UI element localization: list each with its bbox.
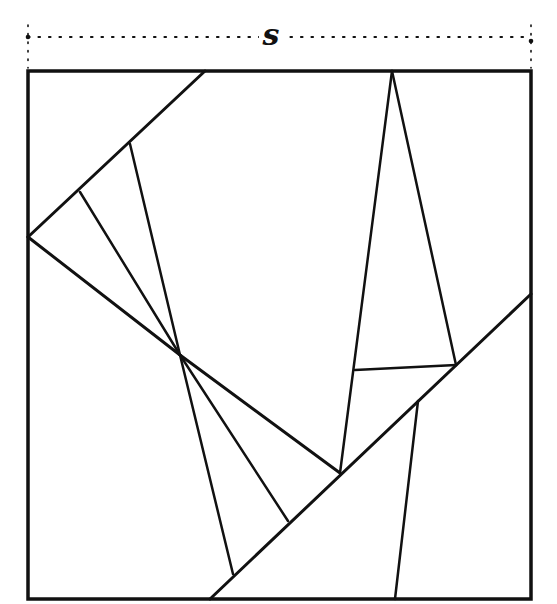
segment-apex-right <box>392 71 456 365</box>
segment-foot-1-to-hub <box>80 192 180 355</box>
dimension-endpoint-left <box>26 35 31 40</box>
segment-cross-bar <box>355 365 456 370</box>
segment-apex-left <box>340 71 392 473</box>
segment-hub-fan-1 <box>180 355 288 521</box>
segment-long-diagonal <box>210 294 531 599</box>
segment-top-diagonal <box>28 71 205 237</box>
segment-lower-right-vertical <box>395 401 418 599</box>
outer-square <box>28 71 531 599</box>
dissection-diagram <box>0 0 557 604</box>
side-length-label: s <box>259 20 283 50</box>
dimension-endpoint-right <box>529 39 534 44</box>
dissection-lines <box>28 71 531 599</box>
